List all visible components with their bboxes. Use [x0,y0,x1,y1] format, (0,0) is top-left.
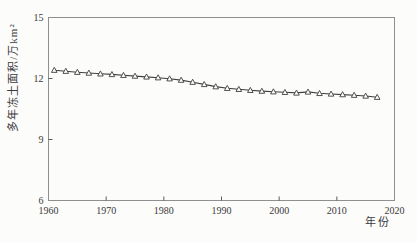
x-tick-label: 1960 [39,205,59,216]
x-tick-label: 1970 [96,205,116,216]
x-tick-label: 2020 [385,205,405,216]
y-axis-title: 多年冻土面积/万km² [6,23,21,133]
x-axis-title: 年份 [355,215,401,229]
x-tick-label: 1990 [212,205,232,216]
data-point-marker [51,67,57,72]
plot-frame [49,18,395,201]
y-tick-label: 12 [34,73,44,84]
permafrost-area-chart: 6912151960197019801990200020102020 多年冻土面… [0,0,417,243]
x-tick-label: 1980 [154,205,174,216]
x-tick-label: 2010 [327,205,347,216]
y-tick-label: 9 [39,134,44,145]
y-tick-label: 15 [34,12,44,23]
x-tick-label: 2000 [269,205,289,216]
plot-area: 6912151960197019801990200020102020 [0,0,417,243]
